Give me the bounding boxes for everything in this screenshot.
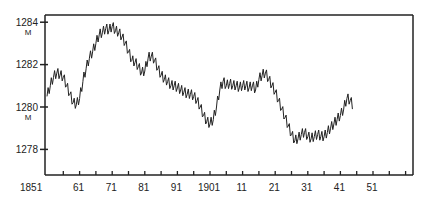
y-axis: 12781280M12821284M xyxy=(16,17,48,155)
plot-frame xyxy=(45,15,413,175)
y-tick-label: 1280 xyxy=(16,102,39,113)
water-level-line-chart: 12781280M12821284M 185161718191190111213… xyxy=(0,0,431,202)
x-tick-label: 71 xyxy=(106,182,118,193)
y-tick-label: 1282 xyxy=(16,59,39,70)
y-unit-label: M xyxy=(25,28,32,37)
x-tick-label: 1901 xyxy=(198,182,221,193)
x-tick-label: 91 xyxy=(171,182,183,193)
y-tick-label: 1284 xyxy=(16,17,39,28)
x-tick-label: 31 xyxy=(301,182,313,193)
data-line xyxy=(47,23,352,144)
x-tick-label: 51 xyxy=(366,182,378,193)
x-tick-label: 61 xyxy=(73,182,85,193)
x-tick-label: 21 xyxy=(269,182,281,193)
y-unit-label: M xyxy=(25,113,32,122)
x-tick-label: 41 xyxy=(334,182,346,193)
x-tick-label: 11 xyxy=(236,182,247,193)
y-tick-label: 1278 xyxy=(16,144,39,155)
x-tick-label: 81 xyxy=(138,182,150,193)
x-tick-label: 1851 xyxy=(20,182,43,193)
